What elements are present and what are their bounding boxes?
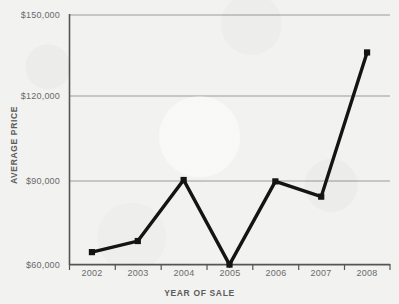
x-tick-label-2005: 2005	[207, 268, 253, 278]
data-point-marker-2005	[226, 262, 232, 268]
data-point-marker-2008	[364, 49, 370, 55]
x-tick-label-2006: 2006	[253, 268, 299, 278]
x-tick-label-2004: 2004	[161, 268, 207, 278]
x-tick-label-2002: 2002	[69, 268, 115, 278]
average-price-line-chart: AVERAGE PRICE $150,000 $120,000 $90,000 …	[0, 0, 399, 304]
data-point-marker-2002	[89, 249, 95, 255]
y-tick-label-120000: $120,000	[0, 91, 60, 101]
x-tick-label-2007: 2007	[298, 268, 344, 278]
y-tick-label-90000: $90,000	[0, 176, 60, 186]
y-tick-label-60000: $60,000	[0, 260, 60, 270]
data-point-marker-2003	[135, 238, 141, 244]
x-axis-title: YEAR OF SALE	[0, 288, 399, 298]
x-tick-label-2008: 2008	[344, 268, 390, 278]
data-point-marker-2004	[181, 177, 187, 183]
plot-area	[0, 0, 399, 304]
series-line	[92, 52, 367, 264]
x-tick-label-2003: 2003	[115, 268, 161, 278]
y-tick-label-150000: $150,000	[0, 10, 60, 20]
data-point-marker-2006	[272, 178, 278, 184]
data-series-average-price	[89, 49, 370, 267]
data-point-marker-2007	[318, 194, 324, 200]
